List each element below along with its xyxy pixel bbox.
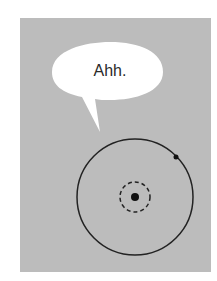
center-dot	[131, 193, 139, 201]
speech-bubble-text: Ahh.	[80, 62, 140, 80]
orbit-dot	[174, 155, 179, 160]
speech-bubble	[52, 42, 163, 132]
illustration	[0, 0, 217, 281]
